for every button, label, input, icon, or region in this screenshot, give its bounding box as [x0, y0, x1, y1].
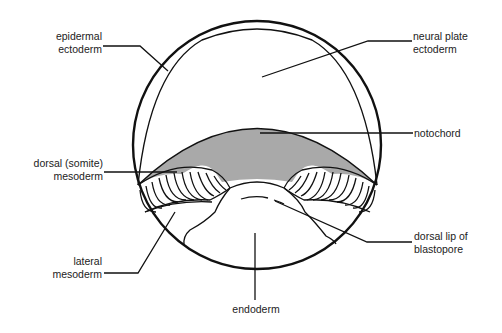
leader-dorsal-lip: [275, 201, 412, 242]
label-dorsal-meso-line1: dorsal (somite): [14, 157, 103, 170]
label-epidermal-line1: epidermal: [40, 30, 102, 43]
label-lateral-line2: mesoderm: [40, 268, 102, 281]
label-epidermal-ectoderm: epidermal ectoderm: [40, 30, 102, 56]
label-neural-line1: neural plate: [413, 30, 468, 43]
label-dorsal-lip: dorsal lip of blastopore: [414, 230, 468, 256]
label-neural-plate-ectoderm: neural plate ectoderm: [413, 30, 468, 56]
leader-epidermal-ectoderm: [103, 46, 168, 71]
label-epidermal-line2: ectoderm: [40, 43, 102, 56]
leader-neural-plate: [262, 41, 412, 77]
blastopore-arc: [241, 197, 268, 199]
label-neural-line2: ectoderm: [413, 43, 468, 56]
label-dorsal-lip-line2: blastopore: [414, 243, 468, 256]
label-endoderm: endoderm: [220, 303, 292, 316]
label-endoderm-line1: endoderm: [220, 303, 292, 316]
label-lateral-mesoderm: lateral mesoderm: [40, 255, 102, 281]
label-notochord-line1: notochord: [414, 127, 461, 140]
label-dorsal-lip-line1: dorsal lip of: [414, 230, 468, 243]
archenteron-top: [230, 182, 284, 188]
leader-lateral-mesoderm: [104, 212, 175, 273]
endoderm-upper-boundary: [184, 188, 230, 245]
label-dorsal-meso-line2: mesoderm: [14, 170, 103, 183]
label-dorsal-mesoderm: dorsal (somite) mesoderm: [14, 157, 103, 183]
label-lateral-line1: lateral: [40, 255, 102, 268]
label-notochord: notochord: [414, 127, 461, 140]
